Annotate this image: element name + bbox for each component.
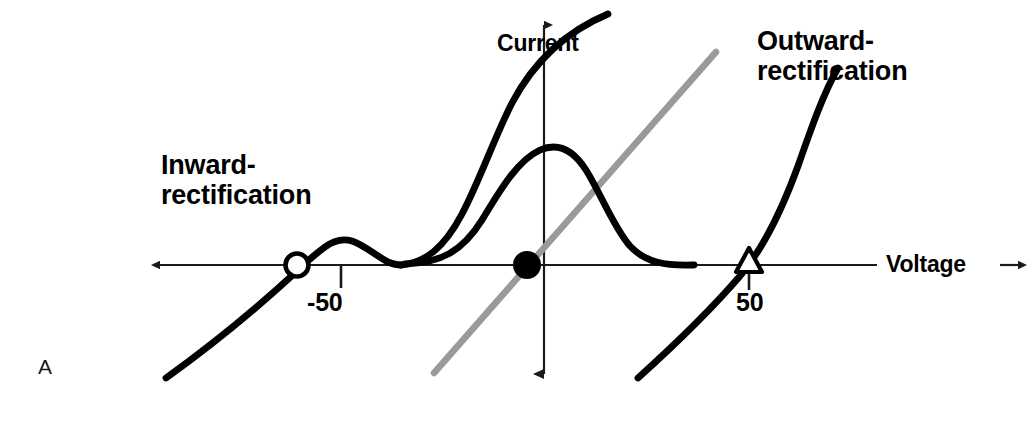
inward-rectification-label: Inward- rectification	[161, 150, 311, 210]
panel-label: A	[38, 355, 52, 379]
x-axis-label: Voltage	[886, 252, 966, 278]
filled-circle-marker	[514, 252, 540, 278]
outward-rectification-curve	[638, 68, 838, 378]
outward-rectification-label: Outward- rectification	[757, 26, 907, 86]
bell-curve-right	[405, 147, 694, 265]
tick-label-pos50: 50	[736, 288, 763, 316]
y-axis-label: Current	[497, 31, 579, 57]
open-circle-marker	[286, 254, 309, 277]
tick-label-neg50: -50	[307, 288, 343, 316]
rectification-figure: Inward- rectification Outward- rectifica…	[0, 0, 1035, 435]
inward-rectification-curve	[166, 240, 401, 378]
ohmic-line	[434, 52, 716, 373]
